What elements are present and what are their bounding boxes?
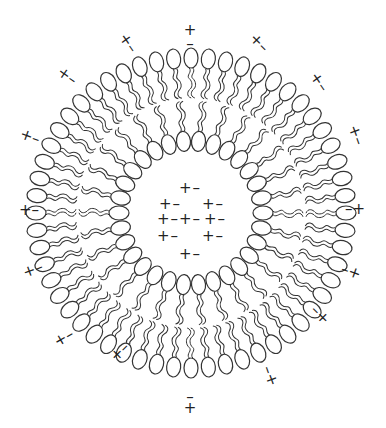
outer-lipid	[166, 326, 186, 377]
outer-lipid	[197, 48, 217, 99]
inner-charge-label: +–	[179, 181, 201, 196]
outer-lipid	[166, 48, 186, 99]
inner-charge-label: +–	[179, 247, 201, 262]
outer-lipid	[26, 219, 77, 239]
outer-lipid	[184, 48, 198, 98]
charge-label: +	[184, 401, 197, 416]
inner-charge-label: +–	[204, 212, 226, 227]
inner-charge-label: +–	[157, 212, 179, 227]
inner-lipid	[253, 206, 303, 220]
inner-charge-label: +–	[179, 212, 201, 227]
inner-charge-label: +–	[202, 229, 224, 244]
inner-charge-label: +–	[157, 229, 179, 244]
inner-lipid	[79, 206, 129, 220]
charge-label: –	[186, 37, 194, 52]
liposome-diagram: +–+–+–+––+–+–+–+–++–+–+–+–+–+–+– +–+–+–+…	[0, 0, 386, 428]
charge-label: –+	[345, 202, 365, 217]
outer-lipid	[184, 328, 198, 378]
outer-lipid	[304, 219, 355, 239]
charge-label: +–	[19, 203, 39, 218]
outer-lipid	[197, 326, 217, 377]
